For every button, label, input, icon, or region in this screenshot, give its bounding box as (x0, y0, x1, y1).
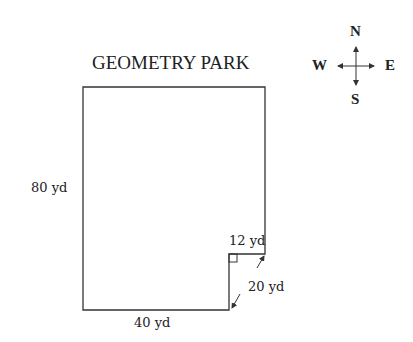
label-notch-side: 20 yd (248, 279, 284, 294)
label-notch-top: 12 yd (229, 233, 265, 248)
arrow-notch-bottom (232, 294, 240, 308)
compass-east-label: E (385, 57, 395, 74)
right-angle-marker (229, 254, 237, 262)
compass-west-label: W (312, 57, 327, 74)
arrow-notch-top (257, 256, 264, 268)
compass-north-label: N (350, 23, 361, 40)
compass-south-label: S (351, 91, 359, 108)
label-bottom-side: 40 yd (134, 315, 170, 330)
park-outline (83, 87, 265, 310)
diagram-title: GEOMETRY PARK (92, 52, 249, 74)
label-left-side: 80 yd (31, 180, 67, 195)
